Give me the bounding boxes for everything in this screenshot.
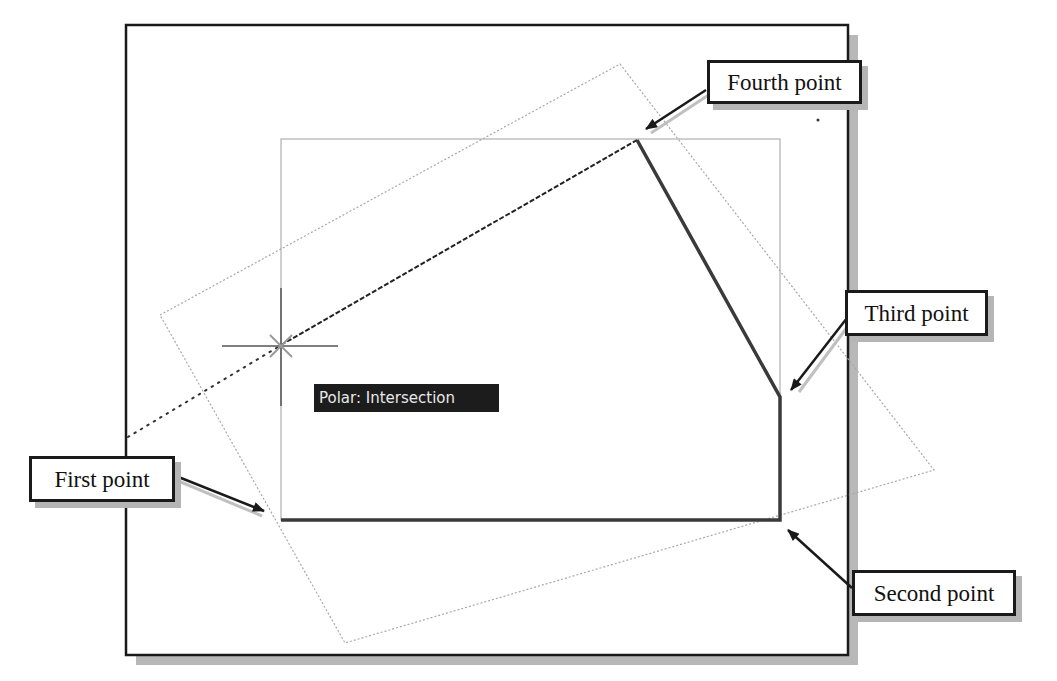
callout-first-point: First point — [29, 456, 175, 502]
callout-third-text: Third point — [864, 302, 968, 325]
stray-dot — [817, 119, 820, 122]
polar-tooltip-text: Polar: Intersection — [319, 389, 455, 407]
callout-fourth-text: Fourth point — [727, 71, 841, 94]
callout-first-text: First point — [54, 468, 149, 491]
callout-second-point: Second point — [852, 570, 1016, 616]
polar-tooltip: Polar: Intersection — [314, 384, 499, 412]
drawing-frame — [126, 25, 848, 655]
callout-third-point: Third point — [845, 290, 988, 336]
callout-second-text: Second point — [874, 582, 995, 605]
callout-fourth-point: Fourth point — [707, 60, 862, 104]
